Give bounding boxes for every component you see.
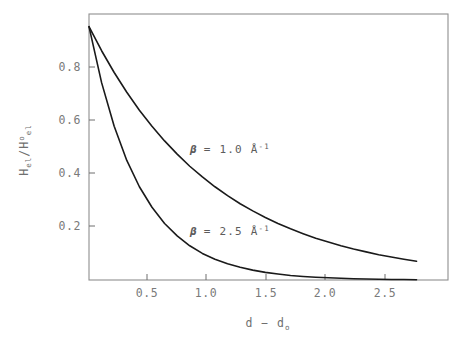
y-axis-denominator: H <box>17 141 31 149</box>
beta-1-text: = 1.0 Å <box>204 143 259 156</box>
beta-2-text: = 2.5 Å <box>204 225 259 238</box>
y-axis-slash: / <box>17 149 31 157</box>
y-tick-label: 0.2 <box>58 219 81 233</box>
beta-2-exponent: -1 <box>259 224 270 233</box>
x-tick-label: 2.0 <box>314 286 337 300</box>
x-tick-label: 1.0 <box>195 286 218 300</box>
beta-symbol: β <box>189 143 198 156</box>
x-axis-title: d − do <box>245 316 290 332</box>
x-tick-label: 1.5 <box>255 286 278 300</box>
svg-text:d − do: d − do <box>245 316 290 332</box>
y-axis-denominator-sub: el <box>24 124 33 135</box>
chart-figure: 0.5 1.0 1.5 2.0 2.5 0.2 0.4 0.6 0.8 Hel/… <box>0 0 461 346</box>
beta-symbol: β <box>189 225 198 238</box>
chart-svg: 0.5 1.0 1.5 2.0 2.5 0.2 0.4 0.6 0.8 Hel/… <box>0 0 461 346</box>
x-tick-label: 2.5 <box>374 286 397 300</box>
y-tick-label: 0.4 <box>58 166 81 180</box>
y-tick-label: 0.6 <box>58 113 81 127</box>
y-tick-label: 0.8 <box>58 60 81 74</box>
x-tick-label: 0.5 <box>136 286 159 300</box>
y-axis-numerator-sub: el <box>24 157 33 168</box>
x-axis-title-sub: o <box>285 323 291 332</box>
y-axis-numerator: H <box>17 168 31 176</box>
x-axis-title-main: d − d <box>245 316 285 330</box>
beta-1-exponent: -1 <box>259 142 270 151</box>
